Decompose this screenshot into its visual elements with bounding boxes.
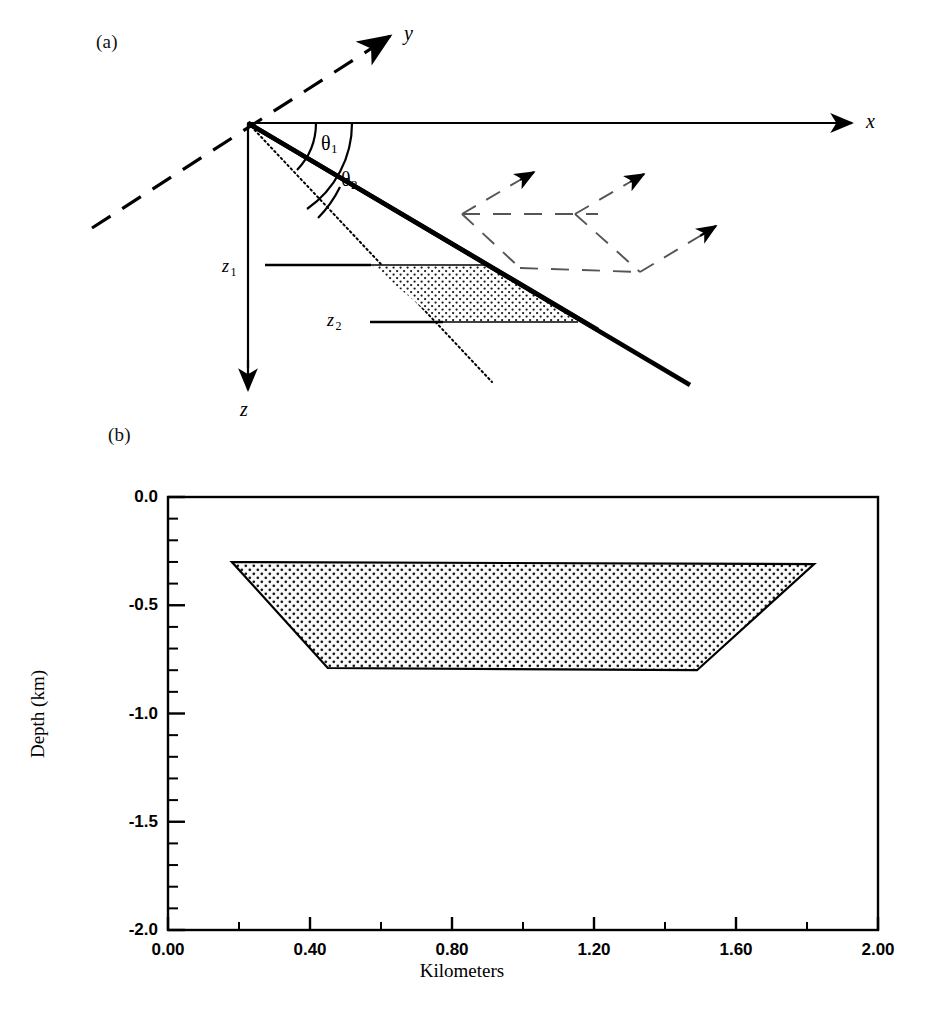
x-tick-label: 2.00 bbox=[861, 940, 894, 960]
y-tick-label: -0.5 bbox=[102, 595, 158, 615]
x-tick-label: 1.60 bbox=[719, 940, 752, 960]
panel-b-chart bbox=[0, 0, 925, 1030]
y-tick-label: -1.0 bbox=[102, 704, 158, 724]
panel-b-label: (b) bbox=[108, 424, 131, 446]
y-tick-label: -2.0 bbox=[102, 920, 158, 940]
x-tick-label: 1.20 bbox=[577, 940, 610, 960]
y-axis-title: Depth (km) bbox=[27, 670, 49, 758]
y-tick-label: 0.0 bbox=[102, 487, 158, 507]
figure-container: (a) y x z θ1 θ2 z1 z2 (b) Kilometers Dep… bbox=[0, 0, 925, 1030]
x-tick-label: 0.00 bbox=[151, 940, 184, 960]
dipping-layer-polygon bbox=[232, 562, 814, 670]
x-axis-title: Kilometers bbox=[420, 960, 504, 982]
x-tick-label: 0.80 bbox=[435, 940, 468, 960]
x-tick-label: 0.40 bbox=[293, 940, 326, 960]
y-tick-label: -1.5 bbox=[102, 812, 158, 832]
